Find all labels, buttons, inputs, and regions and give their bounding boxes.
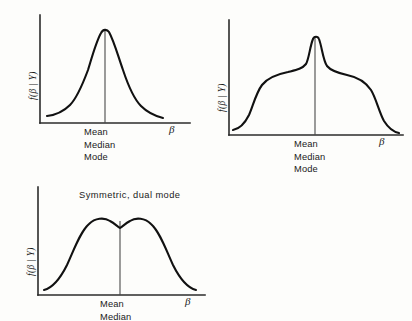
panel-3-x-axis-label: β bbox=[185, 295, 190, 307]
panel-peaked-heavy-shoulders: f(β | Y) β Mean Median Mode bbox=[206, 0, 412, 175]
panel-1-stat-median: Median bbox=[84, 139, 115, 152]
panel-unimodal-symmetric: f(β | Y) β Mean Median Mode bbox=[0, 0, 206, 165]
panel-2-density-curve bbox=[233, 37, 399, 133]
panel-3-y-axis-label: f(β | Y) bbox=[26, 247, 36, 276]
panel-2-stat-labels: Mean Median Mode bbox=[294, 138, 325, 176]
panel-1-stat-mode: Mode bbox=[84, 151, 115, 164]
figure-root: f(β | Y) β Mean Median Mode f(β | Y) β M… bbox=[0, 0, 412, 321]
panel-symmetric-dual-mode: f(β | Y) Symmetric, dual mode β Mean Med… bbox=[0, 180, 240, 321]
panel-2-stat-median: Median bbox=[294, 151, 325, 164]
panel-1-x-axis-label: β bbox=[169, 123, 174, 135]
panel-2-stat-mean: Mean bbox=[294, 138, 325, 151]
panel-3-stat-median: Median bbox=[100, 311, 131, 321]
panel-2-y-axis-label: f(β | Y) bbox=[217, 83, 227, 112]
panel-2-x-axis-label: β bbox=[379, 135, 384, 147]
panel-1-y-axis-label: f(β | Y) bbox=[28, 71, 38, 100]
panel-3-stat-labels: Mean Median bbox=[100, 298, 131, 321]
panel-2-stat-mode: Mode bbox=[294, 163, 325, 176]
panel-3-stat-mean: Mean bbox=[100, 298, 131, 311]
panel-1-stat-labels: Mean Median Mode bbox=[84, 126, 115, 164]
panel-1-stat-mean: Mean bbox=[84, 126, 115, 139]
panel-3-note: Symmetric, dual mode bbox=[79, 190, 180, 200]
